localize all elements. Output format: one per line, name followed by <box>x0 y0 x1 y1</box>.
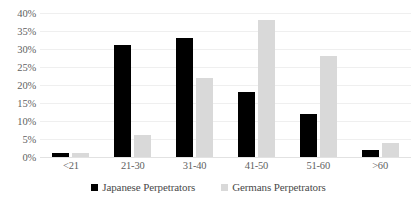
y-axis: 0%5%10%15%20%25%30%35%40% <box>0 0 40 172</box>
x-axis-label: 41-50 <box>225 160 287 171</box>
bar[interactable] <box>238 92 255 157</box>
x-axis-label: >60 <box>349 160 411 171</box>
y-axis-tick: 35% <box>17 26 36 37</box>
bar-group <box>40 13 102 157</box>
bar[interactable] <box>176 38 193 157</box>
bar-chart: 0%5%10%15%20%25%30%35%40% <2121-3031-404… <box>0 0 417 209</box>
legend-label: Japanese Perpetrators <box>102 181 195 193</box>
x-axis-label: 51-60 <box>287 160 349 171</box>
bar-group <box>349 13 411 157</box>
bar[interactable] <box>300 114 317 157</box>
chart-legend: Japanese PerpetratorsGermans Perpetrator… <box>0 181 417 193</box>
legend-item[interactable]: Germans Perpetrators <box>221 181 326 193</box>
plot-area: 0%5%10%15%20%25%30%35%40% <box>0 0 417 172</box>
bar[interactable] <box>114 45 131 157</box>
bar-group <box>102 13 164 157</box>
bars-container <box>40 13 411 157</box>
y-axis-tick: 15% <box>17 98 36 109</box>
axis-baseline <box>40 157 411 158</box>
bar[interactable] <box>362 150 379 157</box>
bar-group <box>164 13 226 157</box>
legend-item[interactable]: Japanese Perpetrators <box>91 181 195 193</box>
y-axis-tick: 0% <box>22 152 36 163</box>
legend-swatch-icon <box>221 184 228 191</box>
legend-swatch-icon <box>91 184 98 191</box>
bar[interactable] <box>382 143 399 157</box>
bar[interactable] <box>258 20 275 157</box>
y-axis-tick: 10% <box>17 116 36 127</box>
bar[interactable] <box>196 78 213 157</box>
bar[interactable] <box>52 153 69 157</box>
x-axis: <2121-3031-4041-5051-60>60 <box>40 160 411 171</box>
x-axis-label: 21-30 <box>102 160 164 171</box>
bar[interactable] <box>134 135 151 157</box>
y-axis-tick: 25% <box>17 62 36 73</box>
y-axis-tick: 5% <box>22 134 36 145</box>
bar[interactable] <box>320 56 337 157</box>
y-axis-tick: 40% <box>17 8 36 19</box>
y-axis-tick: 20% <box>17 80 36 91</box>
bar-group <box>287 13 349 157</box>
x-axis-label: <21 <box>40 160 102 171</box>
y-axis-tick: 30% <box>17 44 36 55</box>
legend-label: Germans Perpetrators <box>232 181 326 193</box>
x-axis-label: 31-40 <box>164 160 226 171</box>
bar-group <box>225 13 287 157</box>
bar[interactable] <box>72 153 89 157</box>
